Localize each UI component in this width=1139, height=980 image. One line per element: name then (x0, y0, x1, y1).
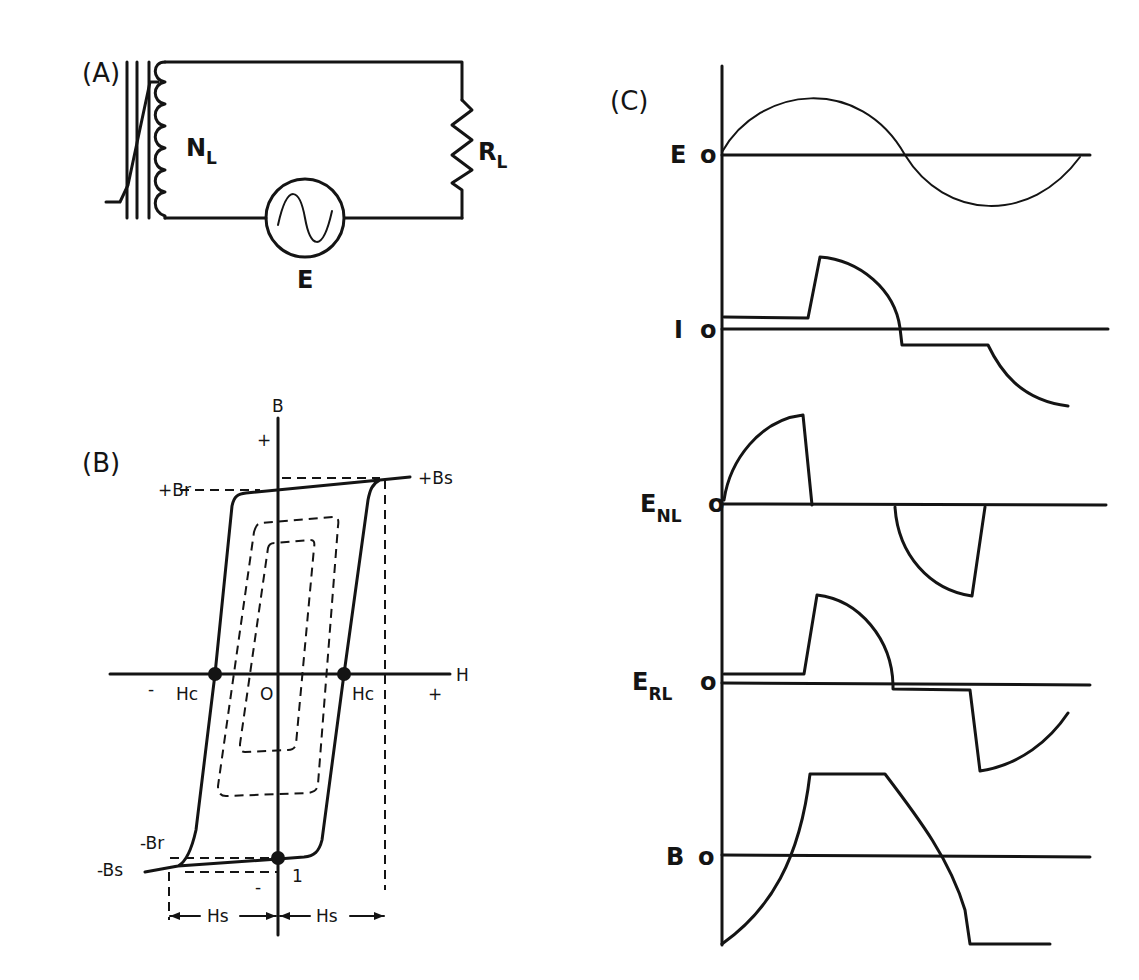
svg-text:ERL: ERL (632, 668, 672, 704)
coercive-left-label: Hc (176, 684, 198, 704)
operating-point-1 (271, 851, 285, 865)
b-axis-label: B (272, 396, 284, 416)
winding-label: NL (186, 134, 217, 168)
svg-text:I: I (674, 316, 683, 344)
panel-c-waveforms: (C) E o I o ENL o ERL (610, 66, 1108, 945)
source-label: E (297, 266, 313, 294)
coercive-point-left (208, 667, 222, 681)
resistor-label: RL (478, 138, 507, 172)
trace-b: B o (666, 774, 1090, 944)
trace-e: E o (670, 98, 1090, 206)
origin-label: O (260, 684, 273, 704)
pos-remanence-label: +Br (158, 480, 191, 500)
minus-h: - (148, 679, 154, 699)
figure-canvas: (A) NL RL E (B) (0, 0, 1139, 980)
resistor-RL (452, 100, 472, 218)
plus-h: + (428, 684, 442, 704)
hs-left-label: Hs (207, 906, 229, 926)
panel-b-hysteresis: (B) B H + + - - O +Br +Bs -Br -Bs Hc Hc … (82, 396, 469, 935)
panel-c-label: (C) (610, 86, 648, 116)
ac-source (266, 179, 344, 257)
coercive-point-right (337, 667, 351, 681)
panel-b-label: (B) (82, 448, 120, 478)
neg-saturation-label: -Bs (97, 860, 123, 880)
svg-text:o: o (700, 316, 717, 344)
hs-right-label: Hs (316, 906, 338, 926)
panel-a-circuit: (A) NL RL E (82, 58, 507, 294)
top-wire (165, 62, 462, 100)
trace-i: I o (674, 257, 1108, 406)
sine-wave-icon (278, 194, 332, 242)
svg-text:o: o (698, 843, 715, 871)
trace-erl: ERL o (632, 595, 1090, 771)
svg-text:o: o (700, 141, 717, 169)
svg-text:B: B (666, 843, 684, 871)
minus-b: - (255, 877, 261, 897)
plus-b: + (257, 430, 271, 450)
load-winding-coil (155, 62, 165, 218)
neg-remanence-label: -Br (140, 833, 164, 853)
h-axis-label: H (456, 665, 469, 685)
pos-saturation-label: +Bs (418, 468, 453, 488)
point-1-label: 1 (292, 866, 303, 886)
svg-text:E: E (670, 141, 686, 169)
svg-text:o: o (700, 668, 717, 696)
panel-a-label: (A) (82, 58, 120, 88)
trace-enl: ENL o (640, 415, 1106, 596)
coercive-right-label: Hc (352, 684, 374, 704)
svg-text:ENL: ENL (640, 490, 682, 526)
